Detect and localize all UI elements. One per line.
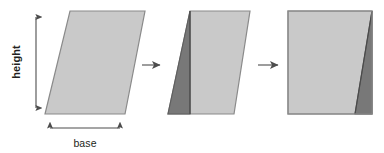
shape-parallelogram-cut: [168, 11, 250, 114]
shape-parallelogram-original: [45, 11, 145, 114]
parallelogram-original-body: [45, 11, 145, 114]
height-label: height: [10, 45, 22, 79]
parallelogram-area-figure: height base: [0, 0, 384, 153]
cut-triangle-left: [168, 11, 190, 114]
figure-canvas: height base: [0, 0, 384, 153]
base-label: base: [73, 137, 96, 149]
shape-rectangle-rearranged: [288, 11, 372, 114]
